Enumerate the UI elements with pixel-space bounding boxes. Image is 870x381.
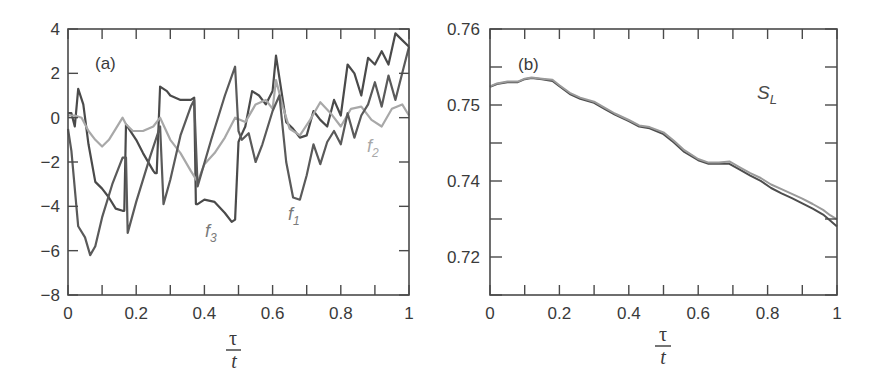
- x-tick-label: 0.6: [261, 304, 285, 323]
- x-tick-label: 0: [485, 304, 494, 323]
- x-axis-label-a-numerator: τ: [229, 327, 237, 349]
- x-axis-label-b-denominator: t: [660, 346, 666, 368]
- series-label-f1: f1: [288, 204, 300, 228]
- chart-panel-b: 00.20.40.60.810.760.750.740.72 (b) SL τ …: [447, 20, 842, 368]
- series-label-f2: f2: [367, 136, 379, 160]
- y-tick-label: −6: [41, 242, 60, 261]
- series-label-f3: f3: [205, 221, 217, 245]
- x-tick-label: 0.8: [329, 304, 353, 323]
- chart-b-ticks: 00.20.40.60.810.760.750.740.72: [447, 20, 842, 323]
- series-label-sl: SL: [757, 82, 777, 107]
- series-line-sl-2: [490, 78, 837, 220]
- x-tick-label: 0.2: [124, 304, 148, 323]
- y-tick-label: 2: [51, 64, 60, 83]
- x-tick-label: 0.6: [686, 304, 710, 323]
- y-tick-label: 4: [51, 20, 60, 39]
- y-tick-label: 0: [51, 109, 60, 128]
- x-axis-label-a-denominator: t: [231, 350, 237, 372]
- y-tick-label: 0.75: [447, 96, 480, 115]
- panel-label-b: (b): [518, 55, 539, 74]
- x-tick-label: 0.4: [617, 304, 641, 323]
- y-tick-label: 0.76: [447, 20, 480, 39]
- x-axis-label-b-numerator: τ: [659, 323, 667, 345]
- y-tick-label: −2: [41, 153, 60, 172]
- panel-label-a: (a): [95, 54, 116, 73]
- series-line-sl-1: [490, 78, 837, 226]
- y-tick-label: 0.74: [447, 172, 480, 191]
- x-tick-label: 0.2: [548, 304, 572, 323]
- x-tick-label: 0: [63, 304, 72, 323]
- chart-panel-a: 00.20.40.60.81420−2−4−6−8 (a) f3 f1 f2 τ…: [41, 20, 414, 372]
- x-tick-label: 0.8: [756, 304, 780, 323]
- chart-b-frame: [490, 29, 837, 295]
- x-tick-label: 1: [832, 304, 841, 323]
- x-tick-label: 1: [404, 304, 413, 323]
- y-tick-label: −8: [41, 286, 60, 305]
- figure: 00.20.40.60.81420−2−4−6−8 (a) f3 f1 f2 τ…: [0, 0, 870, 381]
- y-tick-label: −4: [41, 197, 60, 216]
- chart-b-series: [490, 78, 837, 227]
- y-tick-label: 0.72: [447, 248, 480, 267]
- x-tick-label: 0.4: [193, 304, 217, 323]
- chart-a-series: [68, 33, 409, 255]
